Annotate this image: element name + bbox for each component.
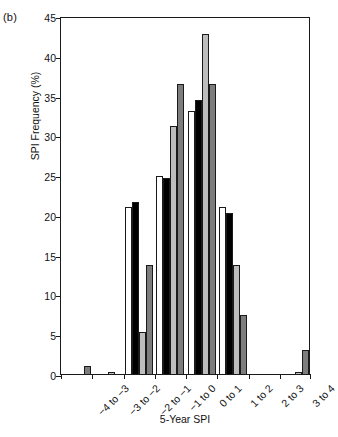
bar [108,372,115,374]
bar-group [155,18,186,374]
x-axis-tick-label: 1 to 2 [247,382,274,409]
bar [170,126,177,374]
bar-group [249,18,280,374]
bar [226,213,233,374]
y-axis-tick-mark [56,137,61,138]
x-axis-tick-mark [155,374,156,379]
x-axis-tick-mark [310,374,311,379]
bar [139,332,146,374]
y-axis-tick-mark [56,18,61,19]
bar-group [186,18,217,374]
bar [195,100,202,374]
bar [202,34,209,374]
bar [125,207,132,374]
bar [295,372,302,374]
bar [219,207,226,374]
bar [233,265,240,374]
x-axis-tick-mark [186,374,187,379]
y-axis-tick-mark [56,217,61,218]
y-axis-tick-mark [56,336,61,337]
x-axis-tick-label: 3 to 4 [310,382,337,409]
bar [302,350,309,374]
bar-group [280,18,311,374]
y-axis-tick-mark [56,257,61,258]
x-axis-tick-label: −1 to 0 [187,382,218,413]
bar [84,366,91,374]
panel-label: (b) [3,11,17,23]
bar-group [92,18,123,374]
x-axis-tick-mark [249,374,250,379]
bars-container [61,18,309,374]
y-axis-title: SPI Frequency (%) [29,21,41,211]
bar [240,315,247,374]
plot-area: 051015202530354045−4 to −3−3 to −2−2 to … [60,17,310,375]
y-axis-tick-mark [56,98,61,99]
y-axis-tick-mark [56,177,61,178]
bar [163,178,170,374]
bar-group [217,18,248,374]
y-axis-tick-mark [56,296,61,297]
x-axis-tick-mark [124,374,125,379]
x-axis-title: 5-Year SPI [60,413,310,425]
bar [146,265,153,374]
x-axis-tick-label: 2 to 3 [279,382,306,409]
bar-group [61,18,92,374]
bar [132,202,139,374]
bar [156,176,163,374]
figure-panel-b: (b) SPI Frequency (%) 051015202530354045… [0,0,338,437]
x-axis-tick-mark [280,374,281,379]
bar-group [124,18,155,374]
y-axis-tick-mark [56,58,61,59]
bar [177,84,184,374]
bar [188,111,195,374]
x-axis-tick-mark [61,374,62,379]
x-axis-tick-mark [217,374,218,379]
x-axis-tick-label: 0 to 1 [216,382,243,409]
bar [209,84,216,374]
x-axis-tick-mark [92,374,93,379]
